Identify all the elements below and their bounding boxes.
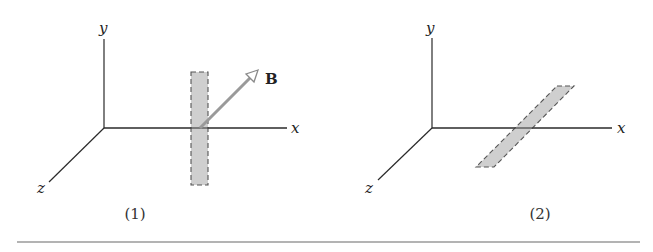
figure-2: y x z (2) <box>364 19 626 223</box>
diagram-canvas: y x z B (1) y x z (2) <box>0 0 653 252</box>
x-label-1: x <box>291 119 300 137</box>
current-loop-2 <box>476 86 574 167</box>
z-label-1: z <box>36 179 45 197</box>
z-axis-2 <box>378 128 432 180</box>
figure-1: y x z B (1) <box>36 19 300 223</box>
caption-1: (1) <box>124 205 145 223</box>
y-label-1: y <box>98 19 108 37</box>
y-label-2: y <box>425 19 435 37</box>
x-label-2: x <box>617 119 626 137</box>
z-label-2: z <box>364 179 373 197</box>
vector-b-label: B <box>265 70 278 88</box>
caption-2: (2) <box>529 205 550 223</box>
z-axis-1 <box>49 128 104 182</box>
